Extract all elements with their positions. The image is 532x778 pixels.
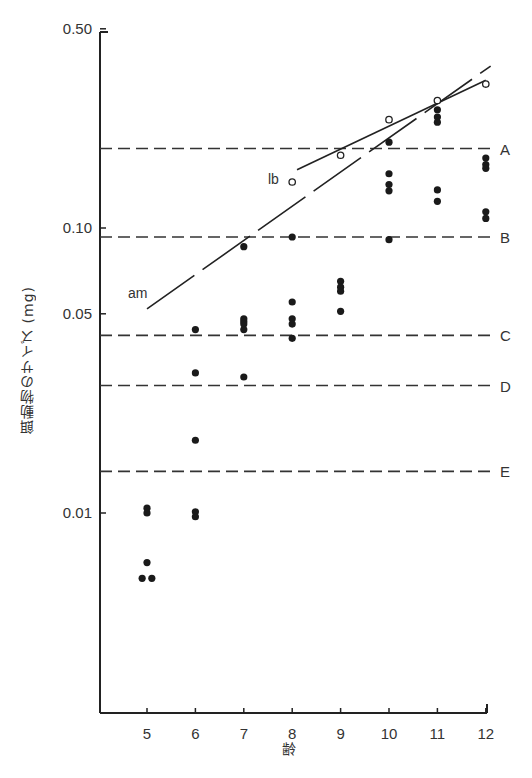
filled-point bbox=[192, 437, 199, 444]
filled-point bbox=[289, 233, 296, 240]
reference-label-d: D bbox=[500, 378, 511, 395]
fit-line-lb bbox=[297, 80, 486, 170]
open-point bbox=[337, 152, 343, 158]
y-tick-label: 0.10 bbox=[63, 219, 92, 236]
filled-point bbox=[434, 198, 441, 205]
filled-point bbox=[240, 326, 247, 333]
y-tick-label: 0.50 bbox=[63, 20, 92, 37]
x-tick-label: 10 bbox=[381, 725, 398, 742]
reference-label-a: A bbox=[500, 141, 510, 158]
reference-lines: ABCDE bbox=[100, 141, 511, 481]
filled-point bbox=[192, 326, 199, 333]
reference-label-c: C bbox=[500, 327, 511, 344]
x-tick-label: 5 bbox=[143, 725, 151, 742]
x-tick-label: 9 bbox=[336, 725, 344, 742]
filled-point bbox=[192, 369, 199, 376]
filled-point bbox=[289, 335, 296, 342]
reference-label-b: B bbox=[500, 229, 510, 246]
filled-point bbox=[482, 215, 489, 222]
x-tick-label: 6 bbox=[191, 725, 199, 742]
data-points bbox=[139, 81, 490, 582]
filled-point bbox=[240, 373, 247, 380]
open-point bbox=[289, 179, 295, 185]
filled-point bbox=[482, 208, 489, 215]
x-tick-label: 12 bbox=[477, 725, 494, 742]
filled-point bbox=[434, 119, 441, 126]
y-tick-label: 0.01 bbox=[63, 504, 92, 521]
filled-point bbox=[434, 106, 441, 113]
filled-point bbox=[139, 575, 146, 582]
filled-point bbox=[148, 575, 155, 582]
open-point bbox=[386, 116, 392, 122]
filled-point bbox=[143, 509, 150, 516]
fit-label-lb: lb bbox=[268, 171, 279, 187]
filled-point bbox=[337, 308, 344, 315]
filled-point bbox=[289, 321, 296, 328]
reference-label-e: E bbox=[500, 463, 510, 480]
filled-point bbox=[385, 181, 392, 188]
open-point bbox=[483, 81, 489, 87]
filled-point bbox=[385, 170, 392, 177]
open-point bbox=[434, 97, 440, 103]
filled-point bbox=[143, 559, 150, 566]
filled-point bbox=[240, 243, 247, 250]
filled-point bbox=[289, 298, 296, 305]
filled-point bbox=[337, 288, 344, 295]
filled-point bbox=[385, 139, 392, 146]
y-axis-label: 餌動物のサイズ (mg) bbox=[18, 286, 38, 434]
fit-label-am: am bbox=[128, 285, 147, 301]
x-tick-label: 7 bbox=[240, 725, 248, 742]
x-axis-label: 齢 bbox=[282, 738, 296, 758]
x-tick-label: 11 bbox=[430, 725, 446, 742]
filled-point bbox=[192, 513, 199, 520]
filled-point bbox=[385, 187, 392, 194]
filled-point bbox=[482, 165, 489, 172]
axes: 0.500.100.050.0156789101112 bbox=[63, 20, 494, 742]
filled-point bbox=[385, 236, 392, 243]
chart-canvas: 0.500.100.050.0156789101112 ABCDE lbam bbox=[0, 0, 532, 778]
filled-point bbox=[482, 154, 489, 161]
filled-point bbox=[434, 186, 441, 193]
y-tick-label: 0.05 bbox=[63, 305, 92, 322]
